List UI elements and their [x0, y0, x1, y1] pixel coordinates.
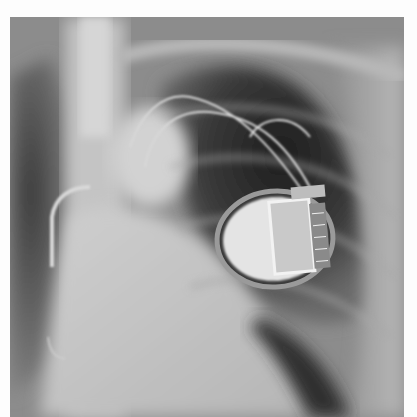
xray-illustration — [10, 17, 404, 417]
device-battery — [269, 199, 315, 274]
aortic-knob — [110, 107, 190, 207]
xray-image — [10, 17, 404, 417]
